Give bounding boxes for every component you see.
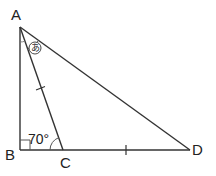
point-label-B: B <box>5 146 15 163</box>
angle-arc-BAC <box>20 41 25 42</box>
point-label-A: A <box>11 6 21 23</box>
point-label-C: C <box>60 154 71 171</box>
angle-label-70: 70° <box>28 131 49 147</box>
angle-arc-ACB <box>50 138 59 150</box>
triangle-diagram: あ 70° A B C D <box>0 0 216 176</box>
point-label-D: D <box>192 141 203 158</box>
angle-symbol: あ <box>31 43 40 53</box>
